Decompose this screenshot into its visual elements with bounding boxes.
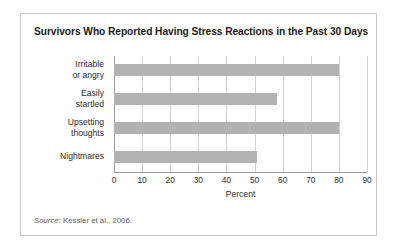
category-label: Upsettingthoughts (20, 117, 104, 138)
category-label: Easilystartled (20, 88, 104, 109)
source-label: Source: (34, 216, 61, 225)
category-label-line: thoughts (20, 128, 104, 139)
category-label-line: Nightmares (20, 151, 104, 162)
bar (114, 93, 277, 105)
x-tick-label-10: 10 (137, 175, 146, 185)
x-axis-tick-labels: 0102030405060708090 (114, 175, 367, 187)
page-title: Survivors Who Reported Having Stress Rea… (34, 26, 369, 37)
x-axis-line (114, 172, 367, 173)
source-citation: Kessler et al., 2006. (61, 216, 132, 225)
category-label-line: or angry (20, 70, 104, 81)
category-label-line: startled (20, 99, 104, 110)
x-tick-label-80: 80 (334, 175, 343, 185)
bar-row (114, 114, 367, 143)
bar-row (114, 143, 367, 172)
category-label-line: Irritable (20, 59, 104, 70)
source-note: Source: Kessler et al., 2006. (34, 216, 132, 225)
plot-area (114, 56, 367, 172)
x-tick-label-0: 0 (112, 175, 117, 185)
x-tick-label-30: 30 (194, 175, 203, 185)
x-axis-title: Percent (114, 189, 367, 199)
bar (114, 151, 257, 163)
category-label-line: Upsetting (20, 117, 104, 128)
x-tick-label-70: 70 (306, 175, 315, 185)
bar-row (114, 56, 367, 85)
category-label-line: Easily (20, 88, 104, 99)
x-tick-label-40: 40 (222, 175, 231, 185)
x-tick-label-50: 50 (250, 175, 259, 185)
category-label: Irritableor angry (20, 59, 104, 80)
y-axis-category-labels: Irritableor angryEasilystartledUpsetting… (21, 56, 109, 172)
bar-series (114, 56, 367, 172)
bar-row (114, 85, 367, 114)
x-tick-label-90: 90 (362, 175, 371, 185)
x-tick-label-20: 20 (166, 175, 175, 185)
category-label: Nightmares (20, 151, 104, 162)
gridline-90 (367, 56, 368, 172)
bar (114, 64, 339, 76)
bar (114, 122, 339, 134)
figure-frame: Survivors Who Reported Having Stress Rea… (20, 13, 377, 236)
x-tick-label-60: 60 (278, 175, 287, 185)
